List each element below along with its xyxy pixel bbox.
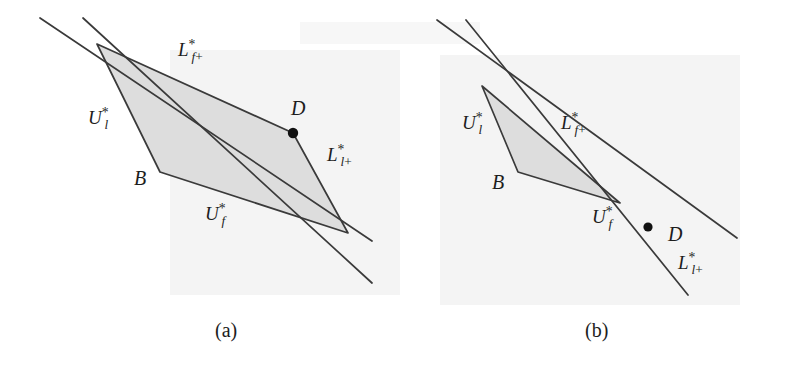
label-base: U [462, 112, 476, 133]
line-U_l_star-panel-b [466, 20, 688, 295]
figure-root: L*f+U*lL*l+U*fDBU*lL*f+U*fL*l+DB (a) (b) [0, 0, 793, 368]
label-subscript: l [105, 117, 109, 132]
label-point-B-panel-a: B [134, 168, 146, 188]
label-base: L [327, 144, 338, 165]
label-U-l-star-panel-a: U*l [88, 108, 108, 127]
label-L-f-plus-panel-a: L*f+ [178, 40, 203, 59]
label-L-l-plus-panel-a: L*l+ [327, 145, 352, 164]
label-U-l-star-panel-b: U*l [462, 113, 482, 132]
label-subscript: f [609, 216, 613, 231]
label-base: L [678, 252, 689, 273]
label-subscript: f+ [574, 122, 585, 137]
label-point-B-panel-b: B [492, 172, 504, 192]
caption-panel-b: (b) [585, 320, 608, 340]
label-L-l-plus-panel-b: L*l+ [678, 253, 703, 272]
label-point-D-panel-a: D [291, 98, 305, 118]
label-subscript: l [479, 122, 483, 137]
point-D-panel-b [643, 222, 652, 231]
figure-canvas [0, 0, 793, 368]
label-U-f-star-panel-b: U*f [592, 207, 612, 226]
label-base: U [88, 107, 102, 128]
label-L-f-plus-panel-b: L*f+ [561, 113, 586, 132]
point-D-panel-a [288, 128, 298, 138]
label-subscript: f+ [191, 49, 202, 64]
label-U-f-star-panel-a: U*f [205, 204, 225, 223]
caption-panel-a: (a) [215, 320, 237, 340]
label-subscript: l+ [691, 262, 702, 277]
label-base: U [592, 206, 606, 227]
label-base: L [561, 112, 572, 133]
label-base: U [205, 203, 219, 224]
label-point-D-panel-b: D [668, 224, 682, 244]
label-subscript: f [222, 213, 226, 228]
label-base: L [178, 39, 189, 60]
label-subscript: l+ [340, 154, 351, 169]
